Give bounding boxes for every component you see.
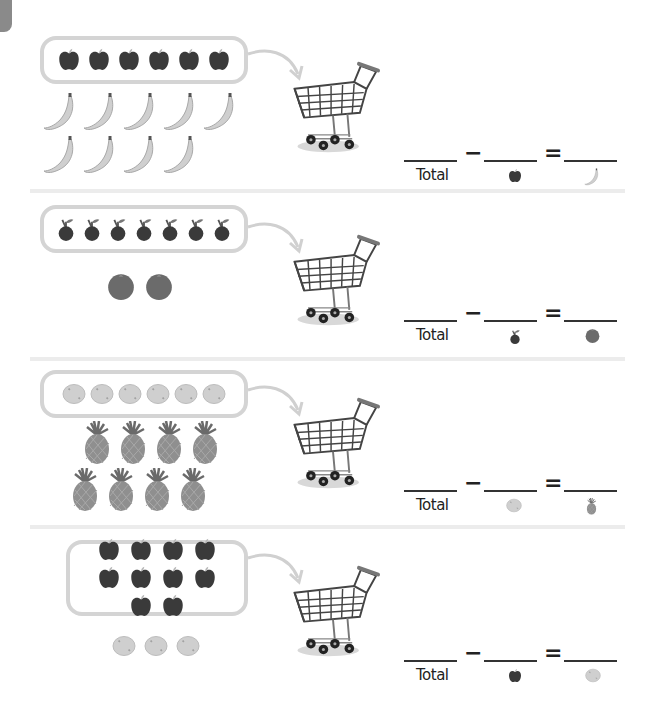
lemon-icon <box>146 383 170 405</box>
cherry-icon <box>159 216 181 242</box>
apple-icon <box>96 565 122 591</box>
banana-row <box>42 135 198 175</box>
lemon-icon <box>176 635 200 657</box>
section-divider <box>30 525 625 529</box>
pineapple-icon <box>155 421 183 465</box>
banana-icon <box>122 92 158 132</box>
banana-icon <box>82 92 118 132</box>
apple-icon <box>86 47 112 73</box>
apple-group-box <box>66 540 248 616</box>
cherry-icon <box>81 216 103 242</box>
cherry-icon <box>508 328 522 345</box>
apple-icon <box>206 47 232 73</box>
total-label: Total <box>416 496 449 514</box>
apple-icon <box>128 537 154 563</box>
pineapple-icon <box>119 421 147 465</box>
problem-2: − = Total <box>0 195 655 360</box>
answer-blank-subtrahend[interactable] <box>484 320 537 322</box>
total-label: Total <box>416 166 449 184</box>
banana-icon <box>583 168 601 186</box>
cherry-icon <box>185 216 207 242</box>
lemon-icon <box>112 635 136 657</box>
cherry-icon <box>211 216 233 242</box>
apple-icon <box>192 565 218 591</box>
subtraction-equation: − = Total <box>404 468 619 518</box>
pineapple-icon <box>143 468 171 512</box>
answer-blank-subtrahend[interactable] <box>484 160 537 162</box>
subtraction-equation: − = Total <box>404 298 619 348</box>
apple-icon <box>146 47 172 73</box>
banana-icon <box>162 92 198 132</box>
apple-icon <box>96 537 122 563</box>
banana-icon <box>82 135 118 175</box>
answer-blank-result[interactable] <box>564 160 617 162</box>
lemon-group-box <box>40 370 248 418</box>
minus-sign: − <box>464 300 482 325</box>
pineapple-row <box>71 468 207 512</box>
equals-sign: = <box>544 300 562 325</box>
shopping-cart-icon <box>285 231 381 331</box>
pineapple-icon <box>179 468 207 512</box>
banana-icon <box>42 135 78 175</box>
lemon-icon <box>506 498 522 513</box>
answer-blank-subtrahend[interactable] <box>484 660 537 662</box>
lemon-icon <box>90 383 114 405</box>
apple-group-box <box>40 36 248 84</box>
apple-icon <box>160 565 186 591</box>
pineapple-icon <box>83 421 111 465</box>
apple-icon <box>56 47 82 73</box>
answer-blank-result[interactable] <box>564 660 617 662</box>
answer-blank-total[interactable] <box>404 490 457 492</box>
apple-icon <box>176 47 202 73</box>
lemon-icon <box>62 383 86 405</box>
lemon-icon <box>144 635 168 657</box>
lemon-icon <box>174 383 198 405</box>
apple-icon <box>160 593 186 619</box>
banana-icon <box>162 135 198 175</box>
cherry-icon <box>107 216 129 242</box>
answer-blank-result[interactable] <box>564 320 617 322</box>
total-label: Total <box>416 326 449 344</box>
apple-icon <box>116 47 142 73</box>
banana-icon <box>122 135 158 175</box>
answer-blank-total[interactable] <box>404 160 457 162</box>
pineapple-icon <box>71 468 99 512</box>
apple-icon <box>128 565 154 591</box>
cherry-group-box <box>40 205 248 253</box>
shopping-cart-icon <box>285 58 381 158</box>
orange-icon <box>107 272 135 300</box>
cherry-icon <box>55 216 77 242</box>
banana-row <box>42 92 238 132</box>
pineapple-icon <box>586 498 597 515</box>
pineapple-icon <box>107 468 135 512</box>
answer-blank-total[interactable] <box>404 320 457 322</box>
subtraction-equation: − = Total <box>404 638 619 688</box>
banana-icon <box>42 92 78 132</box>
orange-icon <box>145 272 173 300</box>
equals-sign: = <box>544 470 562 495</box>
lemon-row <box>112 635 200 657</box>
apple-icon <box>192 537 218 563</box>
lemon-icon <box>118 383 142 405</box>
shopping-cart-icon <box>285 562 381 662</box>
pineapple-row <box>83 421 219 465</box>
apple-icon <box>128 593 154 619</box>
minus-sign: − <box>464 470 482 495</box>
apple-icon <box>507 668 523 684</box>
lemon-icon <box>202 383 226 405</box>
apple-icon <box>507 168 523 184</box>
pineapple-icon <box>191 421 219 465</box>
shopping-cart-icon <box>285 394 381 494</box>
problem-1: − = Total <box>0 0 655 195</box>
problem-4: − = Total <box>0 530 655 719</box>
answer-blank-result[interactable] <box>564 490 617 492</box>
minus-sign: − <box>464 640 482 665</box>
minus-sign: − <box>464 140 482 165</box>
answer-blank-total[interactable] <box>404 660 457 662</box>
apple-icon <box>160 537 186 563</box>
answer-blank-subtrahend[interactable] <box>484 490 537 492</box>
equals-sign: = <box>544 140 562 165</box>
problem-3: − = Total <box>0 360 655 530</box>
section-divider <box>30 189 625 193</box>
orange-row <box>107 272 173 300</box>
